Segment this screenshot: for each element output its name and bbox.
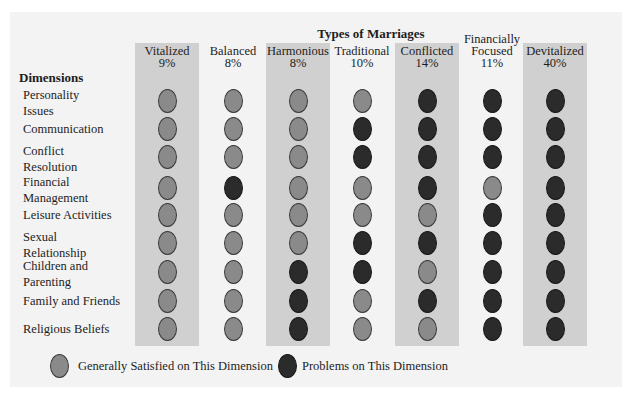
row-label-line1: Financial: [23, 174, 143, 190]
problems-dot-icon: [483, 231, 502, 255]
satisfied-dot-icon: [353, 89, 372, 113]
column-header-devitalized: Devitalized40%: [515, 45, 595, 69]
satisfied-dot-icon: [158, 89, 177, 113]
problems-dot-icon: [546, 176, 565, 200]
problems-dot-icon: [483, 203, 502, 227]
satisfied-dot-icon: [224, 231, 243, 255]
problems-dot-icon: [289, 317, 308, 341]
satisfied-dot-icon: [158, 289, 177, 313]
legend-problems-label: Problems on This Dimension: [302, 359, 448, 374]
row-label: Family and Friends: [23, 293, 143, 309]
problems-dot-icon: [353, 145, 372, 169]
row-label-line1: Leisure Activities: [23, 207, 143, 223]
row-label-line1: Personality: [23, 87, 143, 103]
problems-dot-icon: [224, 176, 243, 200]
problems-dot-icon: [289, 260, 308, 284]
problems-dot-icon: [353, 231, 372, 255]
row-label-line2: Resolution: [23, 159, 143, 175]
satisfied-dot-icon: [158, 203, 177, 227]
satisfied-dot-icon: [224, 203, 243, 227]
satisfied-dot-icon: [158, 260, 177, 284]
row-label-line1: Religious Beliefs: [23, 321, 143, 337]
problems-dot-icon: [546, 89, 565, 113]
problems-dot-icon: [418, 231, 437, 255]
problems-dot-icon: [483, 117, 502, 141]
satisfied-dot-icon: [158, 231, 177, 255]
problems-dot-icon: [418, 145, 437, 169]
problems-dot-icon: [353, 117, 372, 141]
problems-dot-icon: [546, 231, 565, 255]
row-label-line2: Parenting: [23, 274, 143, 290]
satisfied-dot-icon: [224, 317, 243, 341]
problems-dot-icon: [546, 117, 565, 141]
problems-dot-icon: [546, 317, 565, 341]
problems-dot-icon: [418, 289, 437, 313]
problems-dot-icon: [546, 260, 565, 284]
legend: Generally Satisfied on This Dimension Pr…: [10, 352, 622, 382]
satisfied-dot-icon: [289, 231, 308, 255]
row-label: Communication: [23, 121, 143, 137]
row-label-line1: Communication: [23, 121, 143, 137]
problems-dot-icon: [353, 260, 372, 284]
problems-dot-icon: [483, 89, 502, 113]
satisfied-dot-icon: [224, 260, 243, 284]
satisfied-dot-icon: [289, 89, 308, 113]
satisfied-dot-icon: [289, 145, 308, 169]
satisfied-dot-icon: [483, 176, 502, 200]
problems-dot-icon: [546, 203, 565, 227]
satisfied-dot-icon: [224, 289, 243, 313]
legend-satisfied-dot-icon: [50, 354, 69, 378]
figure-panel: Types of Marriages Dimensions Vitalized9…: [10, 12, 622, 387]
satisfied-dot-icon: [224, 89, 243, 113]
dimensions-header: Dimensions: [19, 70, 83, 86]
legend-satisfied-label: Generally Satisfied on This Dimension: [78, 359, 273, 374]
row-label-line1: Conflict: [23, 143, 143, 159]
row-label: Religious Beliefs: [23, 321, 143, 337]
satisfied-dot-icon: [224, 117, 243, 141]
row-label: FinancialManagement: [23, 174, 143, 206]
row-label: ConflictResolution: [23, 143, 143, 175]
problems-dot-icon: [483, 289, 502, 313]
row-label-line1: Family and Friends: [23, 293, 143, 309]
satisfied-dot-icon: [353, 176, 372, 200]
satisfied-dot-icon: [158, 145, 177, 169]
problems-dot-icon: [418, 176, 437, 200]
row-label-line1: Children and: [23, 258, 143, 274]
satisfied-dot-icon: [289, 176, 308, 200]
satisfied-dot-icon: [289, 203, 308, 227]
row-label: PersonalityIssues: [23, 87, 143, 119]
satisfied-dot-icon: [353, 289, 372, 313]
problems-dot-icon: [418, 117, 437, 141]
legend-problems-dot-icon: [278, 354, 297, 378]
satisfied-dot-icon: [158, 176, 177, 200]
satisfied-dot-icon: [158, 317, 177, 341]
problems-dot-icon: [418, 89, 437, 113]
satisfied-dot-icon: [353, 317, 372, 341]
satisfied-dot-icon: [224, 145, 243, 169]
row-label-line1: Sexual: [23, 229, 143, 245]
row-label: Children andParenting: [23, 258, 143, 290]
problems-dot-icon: [546, 289, 565, 313]
row-label-line2: Management: [23, 190, 143, 206]
problems-dot-icon: [546, 145, 565, 169]
satisfied-dot-icon: [418, 260, 437, 284]
satisfied-dot-icon: [353, 203, 372, 227]
problems-dot-icon: [483, 145, 502, 169]
column-percent: 40%: [515, 57, 595, 69]
problems-dot-icon: [483, 317, 502, 341]
satisfied-dot-icon: [418, 203, 437, 227]
row-label-line2: Issues: [23, 103, 143, 119]
satisfied-dot-icon: [289, 117, 308, 141]
problems-dot-icon: [483, 260, 502, 284]
row-label: SexualRelationship: [23, 229, 143, 261]
satisfied-dot-icon: [418, 317, 437, 341]
satisfied-dot-icon: [158, 117, 177, 141]
problems-dot-icon: [289, 289, 308, 313]
row-label: Leisure Activities: [23, 207, 143, 223]
